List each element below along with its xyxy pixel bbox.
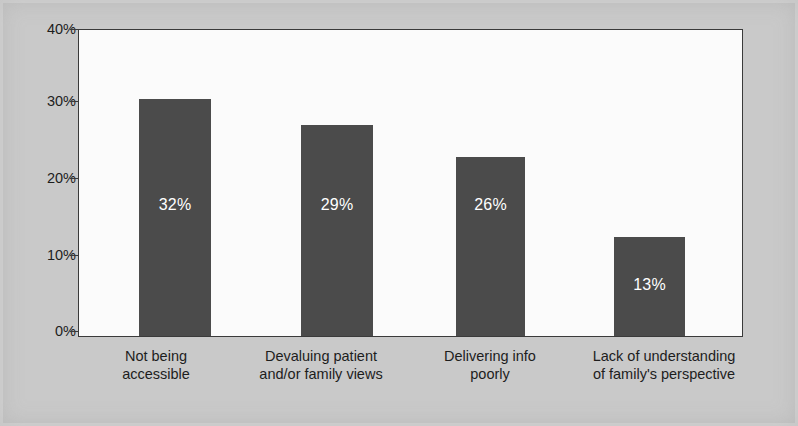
y-tick-mark-10 (70, 255, 78, 256)
bar-not-being-accessible[interactable]: 32% (139, 99, 211, 336)
plot-area: 32% 29% 26% 13% (79, 30, 742, 336)
x-label-not-being-accessible: Not being accessible (78, 347, 234, 383)
bar-value-label: 26% (456, 196, 525, 214)
y-tick-mark-0 (70, 331, 78, 332)
bar-chart-figure: 40% 30% 20% 10% 0% 32% 29% 26% 13% Not b… (0, 0, 798, 426)
bar-value-label: 32% (139, 196, 211, 214)
x-label-lack-of-understanding-family-perspective: Lack of understanding of family's perspe… (558, 347, 770, 383)
bar-value-label: 29% (301, 196, 373, 214)
bar-lack-of-understanding-family-perspective[interactable]: 13% (614, 237, 685, 336)
x-label-delivering-info-poorly: Delivering info poorly (420, 347, 560, 383)
y-tick-mark-20 (70, 178, 78, 179)
y-tick-mark-30 (70, 101, 78, 102)
bar-delivering-info-poorly[interactable]: 26% (456, 157, 525, 336)
plot-frame: 32% 29% 26% 13% (78, 29, 743, 337)
y-tick-mark-40 (70, 29, 78, 30)
x-label-devaluing-patient-family-views: Devaluing patient and/or family views (228, 347, 414, 383)
bar-value-label: 13% (614, 276, 685, 294)
bar-devaluing-patient-family-views[interactable]: 29% (301, 125, 373, 336)
